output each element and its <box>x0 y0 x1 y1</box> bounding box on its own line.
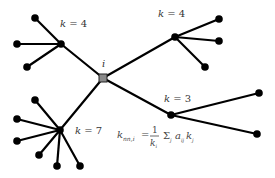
edge-center-hub-bottom-left <box>60 78 103 130</box>
hub-top-right-degree-label: k = 4 <box>158 8 185 19</box>
formula-numerator: 1 <box>152 125 158 135</box>
hub-bottom-left-degree-label: k = 7 <box>75 125 102 136</box>
formula: k nn,i = 1 k i Σ j a ij k j <box>117 125 194 149</box>
formula-lhs-sub: nn,i <box>123 135 135 142</box>
hub-top-left-degree-label: k = 4 <box>60 18 87 29</box>
edge-hub-right-leaf-1 <box>171 115 257 134</box>
edge-center-hub-right <box>103 78 171 115</box>
edge-hub-top-right-leaf-1 <box>175 37 219 41</box>
leaf-node <box>13 115 21 123</box>
leaf-node <box>35 151 43 159</box>
edge-hub-top-left-leaf-2 <box>27 44 61 67</box>
leaf-node <box>23 63 31 71</box>
formula-equals: = <box>141 129 149 140</box>
formula-sigma-sub: j <box>169 137 172 144</box>
hub-top-right-node <box>171 33 179 41</box>
leaf-node <box>13 40 21 48</box>
hub-top-left-node <box>57 40 65 48</box>
leaf-node <box>13 137 21 145</box>
edge-center-hub-top-right <box>103 37 175 78</box>
leaf-node <box>253 130 261 138</box>
center-node-label: i <box>102 58 105 69</box>
network-diagram: k = 4k = 4k = 7k = 3i k nn,i = 1 k i Σ j… <box>0 0 275 178</box>
hub-bottom-left-node <box>56 126 64 134</box>
leaf-node <box>255 89 263 97</box>
formula-denominator-sub: i <box>156 143 158 149</box>
edge-hub-top-right-leaf-2 <box>175 37 205 67</box>
formula-term1-sub: ij <box>181 137 185 144</box>
hub-right-degree-label: k = 3 <box>164 93 191 104</box>
leaf-node <box>215 37 223 45</box>
leaf-node <box>31 14 39 22</box>
leaf-node <box>76 162 84 170</box>
edge-hub-top-left-leaf-0 <box>35 18 61 44</box>
formula-term2-sub: j <box>191 137 194 144</box>
nodes <box>13 14 263 170</box>
leaf-node <box>201 63 209 71</box>
leaf-node <box>31 96 39 104</box>
leaf-node <box>215 15 223 23</box>
center-node-i <box>99 74 107 82</box>
leaf-node <box>53 162 61 170</box>
hub-right-node <box>167 111 175 119</box>
edge-center-hub-top-left <box>61 44 103 78</box>
edge-hub-top-right-leaf-0 <box>175 19 219 37</box>
edge-hub-bottom-left-leaf-4 <box>57 130 60 166</box>
